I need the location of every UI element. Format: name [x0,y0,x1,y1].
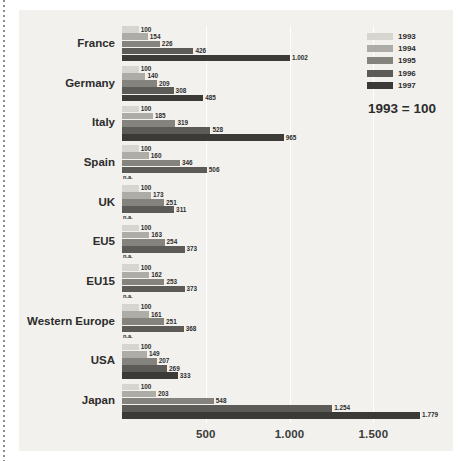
bar[interactable] [122,73,145,80]
legend-item[interactable]: 1993 [367,32,453,41]
bar-value-label: 209 [159,80,170,87]
bar[interactable] [122,152,149,159]
bar[interactable] [122,225,139,232]
bar[interactable] [122,318,164,325]
bar[interactable] [122,398,214,405]
bar[interactable] [122,106,139,113]
bar[interactable] [122,145,139,152]
bar-row[interactable]: 368 [122,326,432,333]
bar-row[interactable]: 254 [122,239,432,246]
bar[interactable] [122,120,175,127]
bar-row[interactable]: 311 [122,206,432,213]
bar[interactable] [122,95,203,102]
page-margin-rule [3,0,5,461]
bar-value-label: 140 [147,72,158,79]
bar[interactable] [122,33,148,40]
bar[interactable] [122,365,167,372]
bar-row[interactable]: 100 [122,264,432,271]
legend-item[interactable]: 1997 [367,81,453,90]
legend-label: 1994 [398,44,416,53]
bar[interactable] [122,87,174,94]
bar-row[interactable]: n.a. [122,253,432,260]
bar[interactable] [122,344,139,351]
bar[interactable] [122,206,174,213]
bar[interactable] [122,127,210,134]
bar[interactable] [122,405,332,412]
bar-row[interactable]: n.a. [122,333,432,340]
bar-row[interactable]: 100 [122,225,432,232]
bar[interactable] [122,326,184,333]
bar-row[interactable]: 528 [122,127,432,134]
bar-value-label: 173 [153,192,164,199]
bar[interactable] [122,391,156,398]
bar[interactable] [122,412,420,419]
bar-row[interactable]: 319 [122,120,432,127]
bar-row[interactable]: 333 [122,372,432,379]
bar-row[interactable]: 1.254 [122,405,432,412]
bar[interactable] [122,264,139,271]
bar[interactable] [122,55,290,62]
bar-row[interactable]: 965 [122,134,432,141]
bar-row[interactable]: 160 [122,152,432,159]
bar[interactable] [122,66,139,73]
bar-row[interactable]: 346 [122,160,432,167]
bar[interactable] [122,286,185,293]
bar-row[interactable]: 269 [122,365,432,372]
bar-row[interactable]: 548 [122,398,432,405]
bar-value-label: 100 [141,26,152,33]
bar[interactable] [122,134,284,141]
bar[interactable] [122,199,164,206]
bar-value-label: 548 [216,397,227,404]
bar[interactable] [122,272,149,279]
bar-row[interactable]: 251 [122,199,432,206]
bar[interactable] [122,358,157,365]
category-label: France [0,37,115,49]
bar-row[interactable]: 100 [122,344,432,351]
bar-value-label: 251 [166,199,177,206]
bar[interactable] [122,113,153,120]
bar[interactable] [122,192,151,199]
bar-row[interactable]: 506 [122,167,432,174]
bar-row[interactable]: n.a. [122,214,432,221]
bar-row[interactable]: 100 [122,145,432,152]
bar[interactable] [122,160,180,167]
bar-value-label: 269 [169,365,180,372]
bar-row[interactable]: n.a. [122,174,432,181]
bar[interactable] [122,351,147,358]
bar-value-label: 254 [167,238,178,245]
bar[interactable] [122,372,178,379]
bar-row[interactable]: 373 [122,246,432,253]
bar-row[interactable]: 1.779 [122,412,432,419]
bar[interactable] [122,167,207,174]
x-axis-tick-label: 1.500 [358,428,388,440]
bar[interactable] [122,246,185,253]
legend-item[interactable]: 1994 [367,44,453,53]
bar[interactable] [122,279,164,286]
bar[interactable] [122,80,157,87]
bar-value-label: 965 [286,134,297,141]
bar-row[interactable]: 251 [122,318,432,325]
bar-row[interactable]: 253 [122,279,432,286]
bar[interactable] [122,384,139,391]
legend-item[interactable]: 1996 [367,69,453,78]
bar-row[interactable]: 100 [122,185,432,192]
bar[interactable] [122,239,165,246]
bar-value-label: 100 [141,105,152,112]
bar-value-label: 506 [209,166,220,173]
bar-value-label: 100 [141,343,152,350]
bar-value-label: 346 [182,159,193,166]
bar[interactable] [122,304,139,311]
bar[interactable] [122,185,139,192]
bar-row[interactable]: n.a. [122,293,432,300]
bar-value-label: 100 [141,145,152,152]
bar-value-label: 373 [187,285,198,292]
bar[interactable] [122,26,139,33]
bar[interactable] [122,311,149,318]
bar-row[interactable]: 203 [122,391,432,398]
bar-row[interactable]: 373 [122,286,432,293]
legend-item[interactable]: 1995 [367,56,453,65]
bar-row[interactable]: 100 [122,304,432,311]
bar[interactable] [122,41,160,48]
bar[interactable] [122,48,193,55]
bar[interactable] [122,232,149,239]
